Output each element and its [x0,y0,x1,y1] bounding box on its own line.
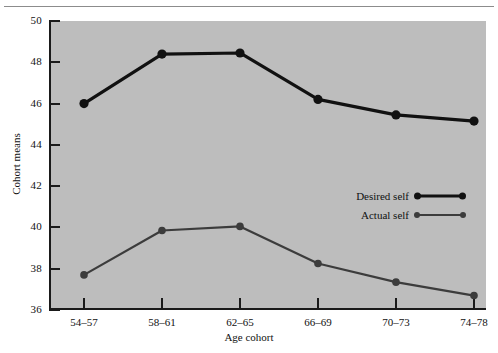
legend-swatch-desired-self [414,191,466,201]
data-point-marker [236,223,244,231]
data-point-marker [235,48,244,57]
legend-item-actual-self: Actual self [341,207,466,223]
series-desired-self [79,48,478,125]
data-point-marker [158,227,166,235]
legend-item-desired-self: Desired self [341,188,466,204]
plot-series-layer [49,21,486,310]
top-divider-rule [4,6,494,7]
y-axis-tick-label: 38 [14,263,42,274]
x-axis-tick-label: 58–61 [127,316,197,328]
data-point-marker [392,278,400,286]
y-axis-tick-label: 50 [14,15,42,26]
chart-legend: Desired self Actual self [341,188,466,224]
legend-swatch-actual-self [414,210,466,220]
data-point-marker [80,271,88,279]
x-axis-tick-label: 54–57 [49,316,119,328]
x-axis-tick-label: 66–69 [283,316,353,328]
y-axis-title: Cohort means [10,109,22,219]
x-axis-tick-label: 70–73 [361,316,431,328]
data-point-marker [79,99,88,108]
data-point-marker [469,117,478,126]
legend-line-icon [417,214,463,216]
data-point-marker [314,260,322,268]
legend-marker-right-icon [459,192,466,199]
legend-marker-right-icon [460,212,466,218]
figure: 3638404244464850 54–5758–6162–6566–6970–… [0,0,498,353]
data-point-marker [470,292,478,300]
y-axis-tick-label: 46 [14,98,42,109]
legend-label-desired-self: Desired self [356,190,409,202]
legend-label-actual-self: Actual self [361,209,409,221]
y-axis-tick-label: 40 [14,221,42,232]
series-line [84,53,474,121]
data-point-marker [313,95,322,104]
x-axis-tick-label: 62–65 [205,316,275,328]
data-point-marker [391,110,400,119]
series-line [84,226,474,295]
y-axis-tick-label: 36 [14,304,42,315]
x-axis-tick-label: 74–78 [439,316,498,328]
x-axis-title: Age cohort [0,331,498,343]
legend-line-icon [417,195,463,198]
series-actual-self [80,223,478,300]
data-point-marker [157,49,166,58]
y-axis-tick-label: 48 [14,56,42,67]
